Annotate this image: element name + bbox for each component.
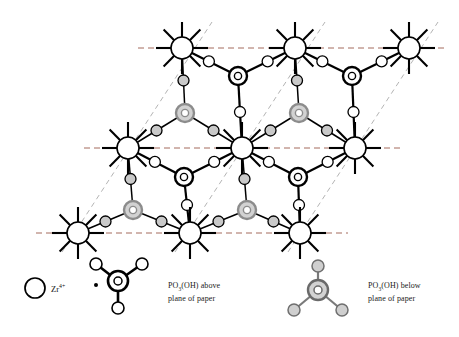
zr-spoke-5 <box>282 240 293 251</box>
zr-atom-0-2 <box>383 22 435 74</box>
zr-spoke-7 <box>282 215 293 226</box>
legend-below-oxygen-2 <box>336 304 348 316</box>
legend-above-p-inner <box>114 277 122 285</box>
oxygen-below-1-left <box>265 125 276 136</box>
zr-spoke-3 <box>362 155 373 166</box>
zr-spoke-1 <box>189 30 200 41</box>
phosphate-below-0 <box>176 104 194 122</box>
oxygen-below-0-right <box>208 125 219 136</box>
oxygen-below-0-stem <box>178 75 189 86</box>
zr-spoke-7 <box>60 215 71 226</box>
zr-spoke-5 <box>172 240 183 251</box>
zr-atom-1-0 <box>102 122 154 174</box>
zr-spoke-3 <box>197 240 208 251</box>
zr-spoke-1 <box>416 30 427 41</box>
oxygen-above-1-stem <box>348 107 359 118</box>
legend-above-label: PO3(OH) aboveplane of paper <box>168 281 263 304</box>
zr-atom-2-0 <box>52 207 104 259</box>
oxygen-below-2-stem <box>125 174 136 185</box>
oxygen-above-1-left <box>317 56 328 67</box>
phosphate-above-0 <box>229 67 247 85</box>
zr-spoke-5 <box>164 55 175 66</box>
oxygen-above-0-stem <box>235 107 246 118</box>
zr-core <box>179 222 201 244</box>
phosphate-below-3 <box>238 201 256 219</box>
oxygen-above-1-right <box>376 56 387 67</box>
zr-core <box>289 222 311 244</box>
zr-spoke-3 <box>307 240 318 251</box>
legend-above-hydroxyl-dot <box>94 283 98 287</box>
legend-above-oxygen-0 <box>90 258 102 270</box>
p-inner-ring <box>294 173 301 180</box>
oxygen-below-3-right <box>268 216 279 227</box>
oxygen-below-3-left <box>213 216 224 227</box>
zr-spoke-5 <box>60 240 71 251</box>
zr-atom-2-1 <box>164 207 216 259</box>
zr-atom-0-1 <box>269 22 321 74</box>
legend-below-oxygen-0 <box>312 260 324 272</box>
zr-spoke-1 <box>85 215 96 226</box>
zr-spoke-7 <box>110 130 121 141</box>
oxygen-below-1-stem <box>292 75 303 86</box>
legend-below-label: PO3(OH) belowplane of paper <box>368 281 459 304</box>
legend-phosphate-above-icon <box>90 258 148 314</box>
oxygen-above-3-left <box>263 156 274 167</box>
p-inner-ring <box>129 206 136 213</box>
oxygen-above-2-right <box>209 156 220 167</box>
zr-core <box>67 222 89 244</box>
p-inner-ring <box>181 109 188 116</box>
zr-spoke-7 <box>277 30 288 41</box>
zr-core <box>117 137 139 159</box>
atom-layer <box>52 22 435 259</box>
zr-spoke-7 <box>172 215 183 226</box>
oxygen-below-1-right <box>322 125 333 136</box>
legend-above-oxygen-2 <box>112 302 124 314</box>
figure-root: Zr4+ PO3(OH) aboveplane of paper PO3(OH)… <box>0 0 459 337</box>
p-inner-ring <box>243 206 250 213</box>
oxygen-below-0-left <box>151 125 162 136</box>
oxygen-above-0-right <box>262 56 273 67</box>
phosphate-below-1 <box>290 104 308 122</box>
phosphate-below-2 <box>124 201 142 219</box>
zr-spoke-3 <box>85 240 96 251</box>
zr-spoke-7 <box>224 130 235 141</box>
zr-atom-1-2 <box>329 122 381 174</box>
oxygen-above-0-left <box>203 56 214 67</box>
oxygen-below-3-stem <box>239 174 250 185</box>
zr-core <box>284 37 306 59</box>
zr-spoke-1 <box>197 215 208 226</box>
p-inner-ring <box>234 72 241 79</box>
legend-above-oxygen-1 <box>136 258 148 270</box>
legend-zr-label: Zr4+ <box>51 283 65 294</box>
zr-core <box>398 37 420 59</box>
legend-zr-circle-icon <box>25 278 45 298</box>
p-inner-ring <box>180 173 187 180</box>
zr-spoke-3 <box>416 55 427 66</box>
oxygen-below-2-right <box>156 216 167 227</box>
zr-spoke-1 <box>302 30 313 41</box>
phosphate-above-2 <box>175 168 193 186</box>
zr-spoke-7 <box>164 30 175 41</box>
zr-core <box>171 37 193 59</box>
p-inner-ring <box>348 72 355 79</box>
phosphate-above-3 <box>289 168 307 186</box>
legend-phosphate-below-icon <box>288 260 348 316</box>
legend-below-p-inner <box>314 286 322 294</box>
zr-spoke-5 <box>110 155 121 166</box>
oxygen-above-3-right <box>322 156 333 167</box>
zr-atom-2-2 <box>274 207 326 259</box>
legend-below-oxygen-1 <box>288 304 300 316</box>
oxygen-below-2-left <box>100 216 111 227</box>
zr-atom-0-0 <box>156 22 208 74</box>
phosphate-above-1 <box>343 67 361 85</box>
zr-spoke-7 <box>391 30 402 41</box>
zr-core <box>344 137 366 159</box>
oxygen-above-2-left <box>149 156 160 167</box>
zr-atom-1-1 <box>216 122 268 174</box>
zr-core <box>231 137 253 159</box>
p-inner-ring <box>295 109 302 116</box>
